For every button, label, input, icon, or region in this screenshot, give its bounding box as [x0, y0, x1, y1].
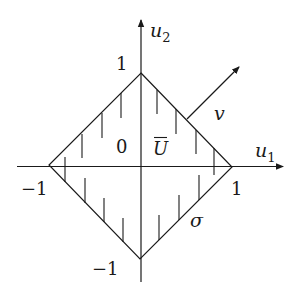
- u1-axis-label: u1: [255, 139, 276, 165]
- vector-label-v: v: [214, 102, 225, 124]
- origin-label: 0: [116, 136, 127, 157]
- region-label-U: U: [153, 138, 169, 159]
- tick-label-bottom: −1: [92, 258, 119, 279]
- vector-v-arrow: [187, 67, 239, 119]
- u2-axis-label: u2: [150, 19, 171, 45]
- boundary-label-sigma: σ: [190, 209, 204, 231]
- tick-label-right: 1: [231, 178, 242, 199]
- tick-label-left: −1: [21, 178, 48, 199]
- axes: [17, 20, 283, 282]
- tick-label-top: 1: [116, 53, 127, 74]
- diamond-region-diagram: u2 u1 1 1 −1 −1 0 U v σ: [0, 0, 297, 289]
